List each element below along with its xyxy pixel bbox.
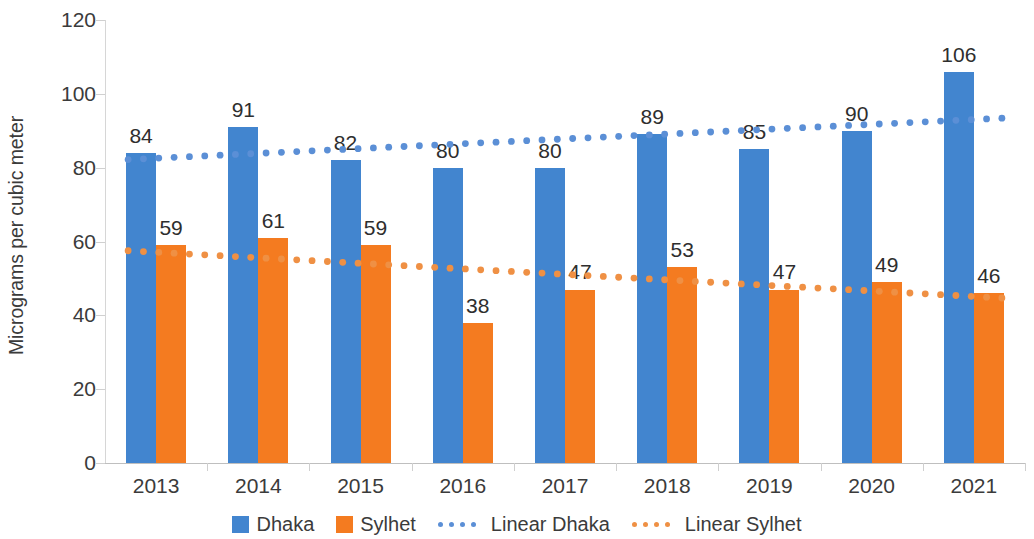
bar-sylhet-2013	[156, 245, 186, 463]
bar-dhaka-2016	[433, 168, 463, 463]
bar-sylhet-2016	[463, 323, 493, 463]
y-axis-tick-mark	[96, 94, 105, 95]
y-axis-tick-label: 80	[40, 156, 96, 180]
data-label-sylhet-2020: 49	[875, 253, 898, 277]
bar-dhaka-2015	[331, 160, 361, 463]
x-axis-tick-mark	[207, 463, 208, 471]
bar-dhaka-2021	[944, 72, 974, 463]
x-axis-tick-label: 2013	[133, 474, 180, 498]
y-axis-tick-mark	[96, 20, 105, 21]
bar-sylhet-2021	[974, 293, 1004, 463]
bar-dhaka-2013	[126, 153, 156, 463]
bar-dhaka-2017	[535, 168, 565, 463]
data-label-sylhet-2013: 59	[159, 216, 182, 240]
legend-label: Dhaka	[256, 513, 314, 536]
data-label-dhaka-2013: 84	[129, 124, 152, 148]
x-axis-line	[105, 463, 1026, 464]
y-axis-tick-label: 120	[40, 8, 96, 32]
data-label-sylhet-2021: 46	[977, 264, 1000, 288]
x-axis-tick-mark	[1025, 463, 1026, 471]
bar-chart: Micrograms per cubic meter 0204060801001…	[0, 0, 1034, 539]
legend-swatch-icon	[232, 516, 249, 533]
x-axis-tick-label: 2019	[746, 474, 793, 498]
legend-label: Linear Dhaka	[491, 513, 610, 536]
data-label-dhaka-2020: 90	[845, 102, 868, 126]
bar-sylhet-2017	[565, 290, 595, 464]
legend-dotted-line-icon	[438, 517, 484, 531]
plot-area: 8459916182598038804789538547904910646	[105, 20, 1025, 463]
data-label-dhaka-2021: 106	[941, 43, 976, 67]
x-axis-tick-label: 2021	[951, 474, 998, 498]
data-label-sylhet-2018: 53	[671, 238, 694, 262]
y-axis-tick-labels: 020406080100120	[34, 0, 96, 539]
bar-dhaka-2014	[228, 127, 258, 463]
x-axis-tick-mark	[616, 463, 617, 471]
legend-dotted-line-icon	[632, 517, 678, 531]
legend-item-sylhet[interactable]: Sylhet	[336, 513, 416, 536]
x-axis-tick-mark	[514, 463, 515, 471]
y-axis-tick-mark	[96, 242, 105, 243]
bar-dhaka-2018	[637, 134, 667, 463]
data-label-dhaka-2015: 82	[334, 131, 357, 155]
bar-dhaka-2019	[739, 149, 769, 463]
x-axis-tick-mark	[412, 463, 413, 471]
y-axis-tick-mark	[96, 315, 105, 316]
x-axis-tick-label: 2014	[235, 474, 282, 498]
bar-sylhet-2015	[361, 245, 391, 463]
x-axis-tick-mark	[718, 463, 719, 471]
y-axis-tick-label: 100	[40, 82, 96, 106]
bar-dhaka-2020	[842, 131, 872, 463]
legend-label: Sylhet	[360, 513, 416, 536]
y-axis-tick-mark	[96, 389, 105, 390]
y-axis-tick-label: 40	[40, 303, 96, 327]
x-axis-tick-label: 2018	[644, 474, 691, 498]
data-label-dhaka-2016: 80	[436, 139, 459, 163]
legend-item-dhaka[interactable]: Dhaka	[232, 513, 314, 536]
x-axis-tick-label: 2017	[542, 474, 589, 498]
data-label-sylhet-2019: 47	[773, 260, 796, 284]
bar-sylhet-2018	[667, 267, 697, 463]
data-label-sylhet-2014: 61	[262, 209, 285, 233]
legend-swatch-icon	[336, 516, 353, 533]
legend-item-linear-dhaka[interactable]: Linear Dhaka	[438, 513, 610, 536]
y-axis-tick-mark	[96, 168, 105, 169]
y-axis-tick-mark	[96, 463, 105, 464]
y-axis-title-text: Micrograms per cubic meter	[6, 115, 29, 354]
x-axis-tick-label: 2016	[439, 474, 486, 498]
bar-sylhet-2019	[769, 290, 799, 464]
legend-label: Linear Sylhet	[685, 513, 802, 536]
y-axis-tick-label: 60	[40, 230, 96, 254]
bar-sylhet-2014	[258, 238, 288, 463]
data-label-sylhet-2015: 59	[364, 216, 387, 240]
y-axis-tick-label: 20	[40, 377, 96, 401]
chart-legend: DhakaSylhetLinear DhakaLinear Sylhet	[0, 509, 1034, 539]
bar-sylhet-2020	[872, 282, 902, 463]
data-label-dhaka-2017: 80	[538, 139, 561, 163]
y-axis-title: Micrograms per cubic meter	[0, 0, 34, 470]
legend-item-linear-sylhet[interactable]: Linear Sylhet	[632, 513, 802, 536]
data-label-dhaka-2014: 91	[232, 98, 255, 122]
data-label-dhaka-2019: 85	[743, 120, 766, 144]
data-label-dhaka-2018: 89	[641, 105, 664, 129]
data-label-sylhet-2017: 47	[568, 260, 591, 284]
x-axis-tick-mark	[309, 463, 310, 471]
data-label-sylhet-2016: 38	[466, 294, 489, 318]
x-axis-tick-mark	[821, 463, 822, 471]
x-axis-tick-mark	[923, 463, 924, 471]
y-axis-tick-label: 0	[40, 451, 96, 475]
x-axis-tick-label: 2020	[848, 474, 895, 498]
x-axis-tick-label: 2015	[337, 474, 384, 498]
